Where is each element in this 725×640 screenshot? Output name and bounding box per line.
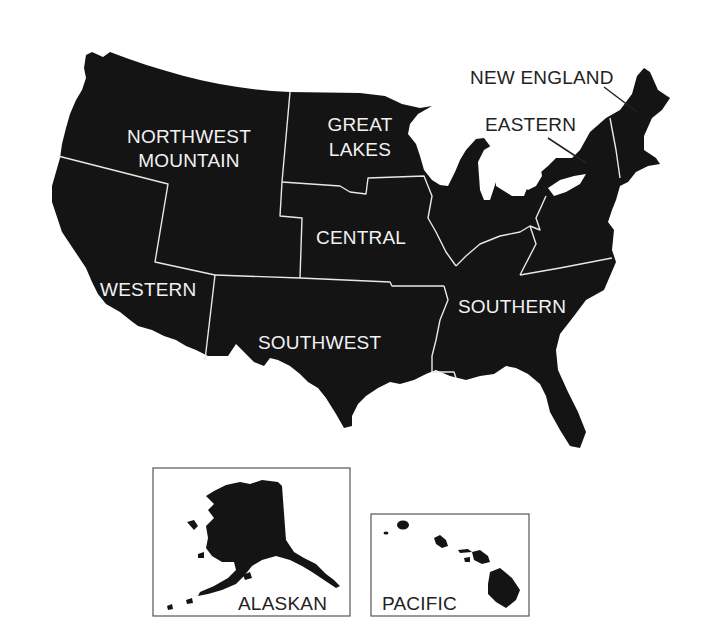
region-label-new-england: NEW ENGLAND [470,67,614,88]
inset-label-alaskan: ALASKAN [238,593,327,614]
region-label-great-lakes-1: GREAT [327,114,392,135]
hawaii-island-kauai [397,521,409,530]
contiguous-us-landmass [52,52,670,448]
region-label-southwest: SOUTHWEST [258,332,381,353]
pacific-inset: PACIFIC [371,514,529,616]
inset-label-pacific: PACIFIC [382,593,457,614]
region-label-western: WESTERN [100,279,196,300]
region-map: NORTHWEST MOUNTAIN GREAT LAKES CENTRAL W… [0,0,725,640]
region-label-northwest-mountain-2: MOUNTAIN [138,150,240,171]
alaskan-inset: ALASKAN [153,468,350,616]
region-label-eastern: EASTERN [485,114,576,135]
region-label-northwest-mountain-1: NORTHWEST [127,126,251,147]
region-label-southern: SOUTHERN [458,296,566,317]
map-canvas: NORTHWEST MOUNTAIN GREAT LAKES CENTRAL W… [0,0,725,640]
region-label-great-lakes-2: LAKES [329,139,391,160]
hawaii-island-niihau [384,531,389,534]
region-label-central: CENTRAL [316,227,406,248]
lake-huron [510,144,542,190]
